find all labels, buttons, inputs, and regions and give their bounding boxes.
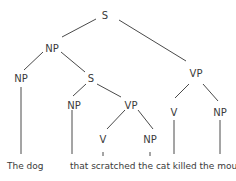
node-np-obj-main: NP — [213, 107, 227, 118]
node-np-head: NP — [14, 73, 28, 84]
tree-nodes: S NP VP NP S NP VP V NP V NP — [14, 10, 227, 145]
edge-vprel-npobjrel — [138, 110, 153, 129]
tree-words: The dog that scratched the cat killed th… — [6, 161, 236, 171]
node-np-obj-rel: NP — [143, 134, 157, 145]
tree-canvas: S NP VP NP S NP VP V NP V NP The dog tha… — [0, 0, 236, 181]
edge-vpmain-vmain — [175, 84, 189, 98]
edge-np-srel — [61, 52, 85, 72]
edge-srel-vprel — [97, 84, 121, 97]
edge-vprel-vrel — [107, 110, 125, 129]
node-root-s: S — [102, 10, 108, 21]
edge-srel-nprel — [73, 84, 86, 96]
node-np-main: NP — [45, 43, 59, 54]
tree-edges — [21, 19, 220, 156]
node-v-main: V — [171, 107, 178, 118]
node-s-rel: S — [88, 73, 94, 84]
edge-s-np — [62, 19, 96, 37]
word-rest-sentence: that scratched the cat killed the mouse — [70, 161, 236, 171]
node-np-rel: NP — [67, 100, 81, 111]
edge-np-nphead — [24, 52, 43, 70]
word-the-dog: The dog — [6, 161, 44, 171]
node-v-rel: V — [100, 134, 107, 145]
syntax-tree-diagram: S NP VP NP S NP VP V NP V NP The dog tha… — [0, 0, 236, 181]
node-vp-main: VP — [190, 68, 203, 79]
edge-vpmain-npobjmain — [203, 84, 218, 101]
edge-s-vp — [119, 20, 186, 61]
node-vp-rel: VP — [125, 100, 138, 111]
